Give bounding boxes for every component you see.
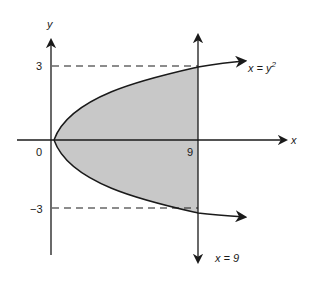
diagram-canvas: y x 3 −3 0 9 x = y2 x = 9 [0,0,310,281]
parabola-equation-label: x = y2 [247,60,277,74]
y-axis-label: y [46,18,54,30]
tick-label-neg-3: −3 [30,203,43,215]
tick-label-9: 9 [187,146,193,158]
x-axis-label: x [290,134,297,146]
origin-label: 0 [36,146,42,158]
tick-label-3: 3 [36,60,42,72]
parabola-region-diagram: y x 3 −3 0 9 x = y2 x = 9 [0,0,310,281]
vertical-line-equation-label: x = 9 [214,252,239,264]
